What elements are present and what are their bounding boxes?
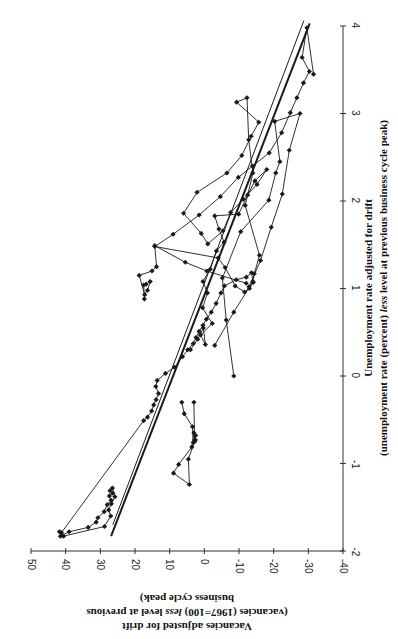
plot-series-markers (57, 25, 316, 539)
diamond-marker-icon (94, 520, 99, 525)
vacancies-tick-label: 20 (130, 559, 141, 571)
unemployment-axis-title: Unemployment rate adjusted for drift (un… (362, 120, 390, 456)
diamond-marker-icon (154, 397, 159, 402)
diamond-marker-icon (137, 273, 142, 278)
diamond-marker-icon (231, 310, 236, 315)
diamond-marker-icon (279, 130, 284, 135)
diamond-marker-icon (183, 260, 188, 265)
diamond-marker-icon (214, 301, 219, 306)
vacancies-title-line1: Vacancies adjusted for drift (122, 621, 252, 633)
unemployment-tick-label: -1 (350, 460, 361, 469)
diamond-marker-icon (149, 408, 154, 413)
diamond-marker-icon (108, 513, 113, 518)
diamond-marker-icon (244, 95, 249, 100)
scatter-line-chart: 50403020100-10-20-30-40 -2-101234 Vacanc… (0, 0, 398, 639)
diamond-marker-icon (297, 111, 302, 116)
diamond-marker-icon (301, 80, 306, 85)
diamond-marker-icon (212, 213, 217, 218)
diamond-marker-icon (142, 296, 147, 301)
vacancies-tick-label: 40 (60, 559, 71, 571)
diamond-marker-icon (191, 400, 196, 405)
vacancies-title-line3: business cycle peak) (140, 592, 234, 605)
series-path-0 (59, 28, 313, 536)
vacancies-title-line2: (vacancies (1967=100) less level at prev… (86, 606, 288, 619)
unemployment-tick-label: 0 (350, 373, 361, 379)
diamond-marker-icon (151, 402, 156, 407)
vacancies-tick-label: -10 (234, 559, 245, 574)
diamond-marker-icon (203, 342, 208, 347)
diamond-marker-icon (244, 281, 249, 286)
diamond-marker-icon (171, 471, 176, 476)
vacancies-tick-label: 10 (164, 559, 175, 571)
diamond-marker-icon (233, 283, 238, 288)
diamond-marker-icon (142, 292, 147, 297)
unemployment-title-line1: Unemployment rate adjusted for drift (362, 199, 374, 377)
unemployment-tick-label: -2 (350, 548, 361, 557)
diamond-marker-icon (106, 507, 111, 512)
diamond-marker-icon (299, 55, 304, 60)
diamond-marker-icon (186, 457, 191, 462)
diamond-marker-icon (231, 373, 236, 378)
diamond-marker-icon (153, 384, 158, 389)
diamond-marker-icon (294, 95, 299, 100)
unemployment-tick-label: 3 (350, 110, 361, 116)
series-path-4 (222, 114, 300, 377)
vacancies-tick-label: 0 (199, 559, 210, 565)
diamond-marker-icon (145, 288, 150, 293)
diamond-marker-icon (194, 190, 199, 195)
diamond-marker-icon (182, 411, 187, 416)
diamond-marker-icon (277, 159, 282, 164)
diamond-marker-icon (67, 529, 72, 534)
diamond-marker-icon (269, 225, 274, 230)
diamond-marker-icon (280, 191, 285, 196)
unemployment-title-line2: (unemployment rate (percent) less level … (377, 120, 390, 456)
diamond-marker-icon (212, 343, 217, 348)
diamond-marker-icon (288, 110, 293, 115)
diamond-marker-icon (102, 524, 107, 529)
diamond-marker-icon (86, 525, 91, 530)
diamond-marker-icon (179, 400, 184, 405)
vacancies-tick-label: 30 (95, 559, 106, 571)
unemployment-tick-label: 2 (350, 198, 361, 204)
unemployment-axis: -2-101234 (340, 23, 361, 557)
diamond-marker-icon (152, 243, 157, 248)
vacancies-axis-title: Vacancies adjusted for drift (vacancies … (86, 592, 288, 633)
diamond-marker-icon (148, 279, 153, 284)
vacancies-tick-label: -30 (303, 559, 314, 574)
vacancies-axis: 50403020100-10-20-30-40 (26, 548, 349, 574)
diamond-marker-icon (218, 290, 223, 295)
vacancies-tick-label: -20 (268, 559, 279, 574)
diamond-marker-icon (273, 170, 278, 175)
unemployment-tick-label: 4 (350, 23, 361, 29)
diamond-marker-icon (311, 72, 316, 77)
unemployment-tick-label: 1 (350, 285, 361, 291)
diamond-marker-icon (234, 277, 239, 282)
vacancies-tick-label: 50 (26, 559, 37, 571)
diamond-marker-icon (307, 69, 312, 74)
diamond-marker-icon (287, 148, 292, 153)
diamond-marker-icon (156, 391, 161, 396)
vacancies-tick-label: -40 (338, 559, 349, 574)
diamond-marker-icon (209, 310, 214, 315)
